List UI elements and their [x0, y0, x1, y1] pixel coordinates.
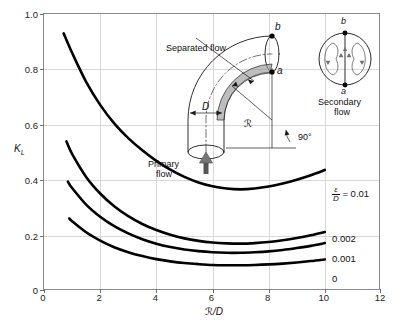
primary-flow-arrow [200, 152, 213, 174]
xtick-label-2: 2 [97, 292, 102, 303]
xtick-label-8: 8 [265, 292, 270, 303]
ytick-label-0.2: 0.2 [25, 230, 38, 241]
y-axis-title: KL [14, 143, 25, 156]
y-axis-title-sub: L [21, 149, 25, 156]
eps-denominator: D [332, 195, 340, 203]
inset-caption-line2: flow [334, 107, 350, 117]
ytick-label-1.0: 1.0 [25, 9, 38, 20]
plot-frame: Separated flow D ℛ 90° b a Primary flow [43, 13, 380, 290]
xtick-label-10: 10 [319, 292, 330, 303]
curve-0.001 [68, 182, 325, 253]
separated-flow-region [217, 64, 272, 120]
inset-point-b-label: b [341, 16, 346, 26]
xtick-label-12: 12 [375, 292, 386, 303]
curve-label-0.002-text: 0.002 [332, 233, 356, 244]
point-b-marker [269, 33, 274, 38]
curve-label-0-text: 0 [332, 273, 337, 284]
inset-center-arrow [343, 47, 347, 51]
vortex-right [352, 43, 365, 75]
xtick-label-6: 6 [209, 292, 214, 303]
radius-label: ℛ [244, 118, 252, 129]
y-axis-title-main: K [14, 143, 21, 154]
radius-dimension [232, 86, 272, 120]
eps-equals-value: = 0.01 [342, 188, 369, 199]
inset-point-b-marker [343, 31, 348, 36]
inset-caption-line1: Secondary [318, 97, 361, 107]
primary-flow-label-line1: Primary [148, 159, 179, 169]
diameter-label: D [202, 101, 209, 112]
angle-label: 90° [298, 132, 312, 142]
vortex-left [325, 43, 338, 75]
point-a-label: a [277, 65, 283, 76]
ytick-label-0.8: 0.8 [25, 64, 38, 75]
ytick-label-0: 0 [33, 285, 38, 296]
angle-arrowhead [285, 130, 290, 135]
diameter-arrow-left [190, 111, 196, 116]
vortex-right-arrow-up [360, 61, 365, 65]
inset-point-a-label: a [341, 86, 346, 96]
vortex-left-arrow-down [339, 53, 344, 57]
eps-over-d-fraction: ε D [332, 186, 340, 203]
primary-flow-label-line2: flow [156, 169, 172, 179]
curve-label-0: 0 [332, 273, 337, 284]
ytick-label-0.6: 0.6 [25, 119, 38, 130]
xtick-label-4: 4 [153, 292, 158, 303]
separated-flow-label: Separated flow [166, 43, 226, 53]
curve-label-0.001-text: 0.001 [332, 253, 356, 264]
vortex-right-arrow-down [347, 53, 352, 57]
ytick-label-0.4: 0.4 [25, 175, 38, 186]
curve-label-0.002: 0.002 [332, 233, 356, 244]
point-b-label: b [275, 21, 281, 32]
xtick-label-0: 0 [40, 292, 45, 303]
curve-label-0.001: 0.001 [332, 253, 356, 264]
x-axis-title: ℛ/D [205, 306, 223, 317]
figure-loss-coefficient-pipe-bend: Separated flow D ℛ 90° b a Primary flow [0, 0, 397, 329]
vortex-left-arrow-up [326, 61, 331, 65]
curve-label-eps-d-001: ε D = 0.01 [332, 186, 369, 203]
